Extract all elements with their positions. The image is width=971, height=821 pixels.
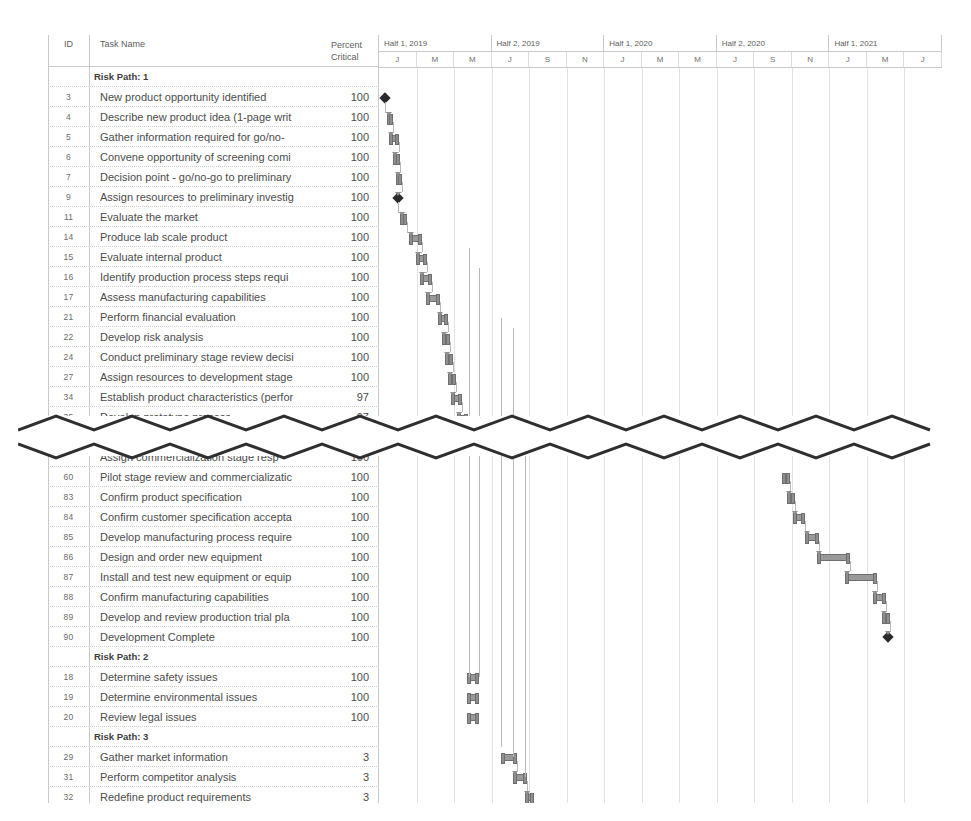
table-row[interactable]: 31Perform competitor analysis3	[48, 767, 379, 787]
timescale-minor-label: M	[867, 52, 905, 67]
chart-gridline	[792, 68, 793, 429]
table-row[interactable]: 18Determine safety issues100	[48, 667, 379, 687]
cell-id: 21	[48, 307, 90, 326]
cell-id: 4	[48, 107, 90, 126]
cell-task-name: Develop risk analysis	[90, 327, 327, 346]
cell-id: 60	[48, 467, 90, 486]
table-row[interactable]: 86Design and order new equipment100	[48, 547, 379, 567]
table-row[interactable]: 84Confirm customer specification accepta…	[48, 507, 379, 527]
dependency-link	[890, 621, 891, 631]
chart-gridline	[754, 447, 755, 803]
table-row[interactable]: 34Establish product characteristics (per…	[48, 387, 379, 407]
cell-percent-critical: 100	[327, 147, 379, 166]
chart-gridline	[642, 447, 643, 803]
cell-percent-critical: 100	[327, 187, 379, 206]
table-row[interactable]: 85Develop manufacturing process require1…	[48, 527, 379, 547]
gantt-chart-top: Half 1, 2019Half 2, 2019Half 1, 2020Half…	[379, 35, 942, 429]
cell-percent-critical: 100	[327, 327, 379, 346]
dependency-arrow-icon	[816, 551, 822, 555]
dependency-arrow-icon	[786, 491, 792, 495]
cell-percent-critical: 100	[327, 207, 379, 226]
cell-percent-critical: 100	[327, 507, 379, 526]
cell-task-name: Design and order new equipment	[90, 547, 327, 566]
cell-percent-critical	[327, 67, 379, 86]
dependency-arrow-icon	[885, 631, 891, 635]
table-row[interactable]: 24Conduct preliminary stage review decis…	[48, 347, 379, 367]
table-row[interactable]: 5Gather information required for go/no-1…	[48, 127, 379, 147]
timescale-minor-label: J	[379, 52, 417, 67]
table-row[interactable]: 22Develop risk analysis100	[48, 327, 379, 347]
task-group-row[interactable]: Risk Path: 3	[48, 727, 379, 747]
table-row[interactable]: 88Confirm manufacturing capabilities100	[48, 587, 379, 607]
table-row[interactable]: 7Decision point - go/no-go to preliminar…	[48, 167, 379, 187]
dependency-link-carryover	[513, 447, 514, 757]
table-row[interactable]: 9Assign resources to preliminary investi…	[48, 187, 379, 207]
timescale-major-label: Half 2, 2020	[717, 35, 830, 52]
zigzag-line-bottom	[18, 440, 958, 466]
dependency-arrow-icon	[441, 332, 447, 336]
table-row[interactable]: 90Development Complete100	[48, 627, 379, 647]
cell-percent-critical	[327, 727, 379, 746]
gantt-bar[interactable]	[467, 694, 479, 701]
table-row[interactable]: 3New product opportunity identified100	[48, 87, 379, 107]
table-row[interactable]: 32Redefine product requirements3	[48, 787, 379, 803]
dependency-arrow-icon	[386, 112, 392, 116]
cell-percent-critical: 100	[327, 307, 379, 326]
task-group-row[interactable]: Risk Path: 2	[48, 647, 379, 667]
dependency-arrow-icon	[844, 571, 850, 575]
chart-gridline	[904, 68, 905, 429]
dependency-link	[422, 242, 423, 252]
cell-id: 27	[48, 367, 90, 386]
timescale-major-label: Half 1, 2020	[604, 35, 717, 52]
cell-percent-critical: 100	[327, 567, 379, 586]
cell-task-name: Install and test new equipment or equip	[90, 567, 327, 586]
dependency-arrow-icon	[388, 132, 394, 136]
dependency-link	[819, 541, 820, 551]
dependency-arrow-icon	[804, 531, 810, 535]
cell-task-name: Produce lab scale product	[90, 227, 327, 246]
cell-task-name: Gather information required for go/no-	[90, 127, 327, 146]
table-row[interactable]: 60Pilot stage review and commercializati…	[48, 467, 379, 487]
chart-gridline	[642, 68, 643, 429]
table-row[interactable]: 89Develop and review production trial pl…	[48, 607, 379, 627]
dependency-arrow-icon	[450, 392, 456, 396]
timescale-minor-label: N	[792, 52, 830, 67]
gantt-bar[interactable]	[467, 714, 479, 721]
table-row[interactable]: 16Identify production process steps requ…	[48, 267, 379, 287]
cell-percent-critical: 100	[327, 87, 379, 106]
table-row[interactable]: 27Assign resources to development stage1…	[48, 367, 379, 387]
table-row[interactable]: 20Review legal issues100	[48, 707, 379, 727]
table-row[interactable]: 29Gather market information3	[48, 747, 379, 767]
dependency-arrow-icon	[395, 172, 401, 176]
table-row[interactable]: 14Produce lab scale product100	[48, 227, 379, 247]
page-break-zigzag-top	[18, 412, 958, 438]
chart-gridline	[604, 68, 605, 429]
chart-gridline	[754, 68, 755, 429]
cell-task-name: Establish product characteristics (perfo…	[90, 387, 327, 406]
task-table-top: ID Task Name Percent Critical Risk Path:…	[48, 35, 379, 429]
cell-percent-critical: 100	[327, 467, 379, 486]
dependency-link-carryover	[501, 447, 502, 747]
table-row[interactable]: 11Evaluate the market100	[48, 207, 379, 227]
cell-id: 5	[48, 127, 90, 146]
gantt-bar[interactable]	[782, 474, 790, 481]
table-row[interactable]: 83Confirm product specification100	[48, 487, 379, 507]
cell-percent-critical: 100	[327, 627, 379, 646]
dependency-link	[427, 262, 428, 272]
dependency-link	[400, 162, 401, 172]
table-row[interactable]: 19Determine environmental issues100	[48, 687, 379, 707]
gantt-bar[interactable]	[501, 754, 517, 761]
table-row[interactable]: 17Assess manufacturing capabilities100	[48, 287, 379, 307]
table-row[interactable]: 87Install and test new equipment or equi…	[48, 567, 379, 587]
table-row[interactable]: 4Describe new product idea (1-page writ1…	[48, 107, 379, 127]
chart-gridline	[417, 68, 418, 429]
table-row[interactable]: 21Perform financial evaluation100	[48, 307, 379, 327]
cell-task-name: Determine safety issues	[90, 667, 327, 686]
table-row[interactable]: 6Convene opportunity of screening comi10…	[48, 147, 379, 167]
table-row[interactable]: 15Evaluate internal product100	[48, 247, 379, 267]
task-group-row[interactable]: Risk Path: 1	[48, 67, 379, 87]
column-header-id: ID	[48, 35, 90, 66]
cell-task-name: Describe new product idea (1-page writ	[90, 107, 327, 126]
gantt-plot-bottom	[379, 447, 942, 803]
chart-gridline	[867, 68, 868, 429]
